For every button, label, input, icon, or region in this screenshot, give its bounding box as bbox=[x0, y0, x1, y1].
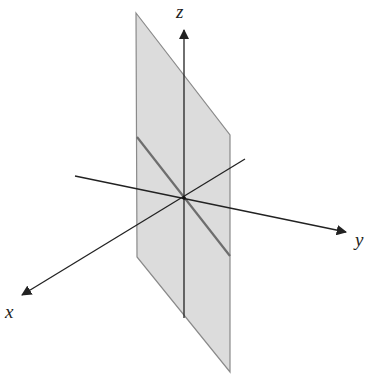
coordinate-diagram bbox=[0, 0, 377, 377]
plane-shape bbox=[136, 13, 230, 372]
z-axis-label: z bbox=[176, 2, 183, 21]
x-axis-label: x bbox=[5, 302, 13, 321]
origin-point bbox=[182, 196, 186, 200]
diagram-canvas: z y x bbox=[0, 0, 377, 377]
y-axis-label: y bbox=[355, 230, 363, 249]
